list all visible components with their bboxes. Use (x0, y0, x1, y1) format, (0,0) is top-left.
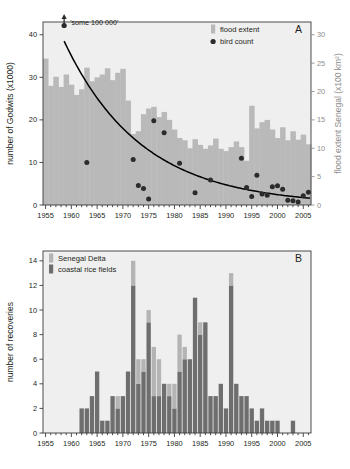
bird-count-point (280, 187, 285, 192)
annotation-label: 'some 100 000' (70, 18, 119, 27)
figure-container: 010203040number of Godwits (x1000)051015… (0, 0, 350, 469)
recovery-bar-coastal-rice-fields (90, 396, 94, 433)
flood-extent-bar (64, 74, 69, 205)
bird-count-point (275, 183, 280, 188)
recovery-bar-senegal-delta (152, 347, 156, 396)
bird-count-point (296, 200, 301, 205)
flood-extent-bar (69, 85, 75, 205)
x-tick-label: 1985 (192, 439, 208, 448)
x-tick-label: 1955 (37, 211, 53, 220)
recovery-bar-senegal-delta (229, 273, 233, 285)
recovery-bar-coastal-rice-fields (250, 408, 254, 433)
panel-a-right-axis: 051015202530 (311, 30, 325, 209)
flood-extent-bar (280, 127, 286, 205)
x-tick-label: 1980 (166, 439, 182, 448)
y-tick-label: 30 (29, 73, 37, 82)
recovery-bar-coastal-rice-fields (234, 384, 238, 433)
flood-extent-bar (306, 144, 312, 205)
flood-extent-bar (187, 148, 193, 205)
bird-count-point (260, 191, 265, 196)
bird-count-point (208, 177, 213, 182)
recovery-bar-coastal-rice-fields (219, 384, 223, 433)
recovery-bar-coastal-rice-fields (167, 396, 171, 433)
panel-b-y-axis-label: number of recoveries (5, 302, 15, 382)
flood-extent-bar (244, 161, 250, 205)
bird-count-point (244, 185, 249, 190)
x-tick-label: 1970 (115, 211, 131, 220)
x-tick-label: 1990 (218, 439, 234, 448)
y2-tick-label: 5 (317, 172, 321, 181)
flood-extent-bar (296, 140, 302, 205)
recovery-bar-coastal-rice-fields (121, 396, 125, 433)
bird-count-point (285, 198, 290, 203)
recovery-bar-senegal-delta (177, 335, 181, 372)
flood-extent-bar (53, 77, 59, 205)
recovery-bar-coastal-rice-fields (105, 421, 109, 433)
y2-tick-label: 0 (317, 201, 321, 210)
legend-swatch-senegal-delta (49, 254, 53, 263)
legend-label-flood-extent: flood extent (220, 25, 260, 34)
recovery-bar-senegal-delta (146, 310, 150, 322)
recovery-bar-coastal-rice-fields (177, 372, 181, 433)
bird-count-point (265, 193, 270, 198)
recovery-bar-senegal-delta (167, 384, 171, 396)
recovery-bar-coastal-rice-fields (100, 421, 104, 433)
flood-extent-bar (254, 128, 260, 205)
y2-tick-label: 15 (317, 115, 325, 124)
y-tick-label: 4 (33, 379, 37, 388)
x-tick-label: 1955 (37, 439, 53, 448)
bird-count-point (162, 130, 167, 135)
x-tick-label: 1965 (89, 211, 105, 220)
flood-extent-bar (141, 114, 147, 205)
recovery-bar-coastal-rice-fields (213, 396, 217, 433)
bird-count-point (146, 197, 151, 202)
flood-extent-bar (74, 95, 80, 205)
recovery-bar-coastal-rice-fields (255, 421, 259, 433)
recovery-bar-coastal-rice-fields (183, 359, 187, 433)
recovery-bar-coastal-rice-fields (95, 372, 99, 433)
panel-a-left-axis: 010203040 (29, 30, 43, 209)
bird-count-point (290, 198, 295, 203)
bird-count-point (131, 157, 136, 162)
x-tick-label: 1965 (89, 439, 105, 448)
x-tick-label: 1980 (166, 211, 182, 220)
panel-a-x-axis: 1955196019651970197519801985199019952000… (37, 205, 311, 220)
flood-extent-bar (79, 89, 85, 205)
bird-count-point (141, 186, 146, 191)
recovery-bar-coastal-rice-fields (152, 396, 156, 433)
bird-count-point (239, 156, 244, 161)
legend-swatch-bird-count (211, 39, 216, 44)
legend-label-bird-count: bird count (220, 37, 254, 46)
x-tick-label: 1995 (244, 439, 260, 448)
recovery-bar-senegal-delta (183, 347, 187, 359)
y-tick-label: 10 (29, 306, 37, 315)
flood-extent-bar (146, 109, 152, 205)
recovery-bar-coastal-rice-fields (126, 372, 130, 433)
recovery-bar-senegal-delta (157, 359, 161, 396)
flood-extent-bar (234, 141, 240, 205)
x-tick-label: 1970 (115, 439, 131, 448)
y-tick-label: 6 (33, 355, 37, 364)
annotation-point (62, 23, 67, 28)
recovery-bar-coastal-rice-fields (193, 298, 197, 433)
panel-a-label: A (295, 23, 302, 35)
flood-extent-bar (131, 134, 137, 205)
panel-a-y-axis-label: number of Godwits (x1000) (5, 62, 15, 165)
panel-a-y2-axis-label: flood extent Senegal (x100 km²) (333, 53, 343, 174)
panel-a-annotation: 'some 100 000' (62, 14, 120, 28)
recovery-bar-senegal-delta (116, 396, 120, 408)
y-tick-label: 2 (33, 404, 37, 413)
recovery-bar-coastal-rice-fields (198, 335, 202, 433)
y-tick-label: 20 (29, 115, 37, 124)
flood-extent-bar (229, 147, 235, 205)
flood-extent-bar (100, 74, 106, 205)
flood-extent-bar (105, 68, 111, 205)
recovery-bar-senegal-delta (131, 261, 135, 286)
x-tick-label: 1960 (63, 211, 79, 220)
flood-extent-bar (177, 138, 183, 205)
flood-extent-bar (218, 149, 224, 205)
bird-count-point (301, 193, 306, 198)
legend-swatch-flood-extent (211, 25, 215, 34)
recovery-bar-coastal-rice-fields (265, 421, 269, 433)
recovery-bar-coastal-rice-fields (110, 396, 114, 433)
